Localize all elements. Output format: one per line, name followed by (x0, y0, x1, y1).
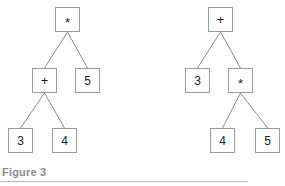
tree-node-r0[interactable]: + (208, 7, 233, 32)
tree-node-l1[interactable]: + (32, 68, 57, 93)
tree-node-label: * (65, 19, 70, 27)
tree-node-label: 5 (84, 75, 91, 87)
tree-edge (241, 93, 268, 128)
caption-divider (0, 181, 248, 182)
tree-edge (198, 32, 221, 68)
tree-edge (21, 93, 45, 128)
tree-node-label: + (217, 13, 225, 26)
tree-node-label: 5 (264, 135, 271, 147)
figure-caption: Figure 3 (0, 166, 285, 178)
tree-node-l0[interactable]: * (55, 7, 80, 32)
tree-node-label: 3 (194, 75, 201, 87)
tree-node-label: + (41, 74, 49, 87)
tree-node-l3[interactable]: 3 (8, 128, 33, 153)
tree-node-r1[interactable]: 3 (185, 68, 210, 93)
tree-node-label: 3 (17, 135, 24, 147)
tree-edge (45, 32, 68, 68)
tree-node-label: 4 (61, 135, 68, 147)
tree-edge-layer (0, 0, 285, 186)
tree-node-l2[interactable]: 5 (75, 68, 100, 93)
figure-caption-block: Figure 3 (0, 166, 285, 178)
tree-node-r4[interactable]: 5 (255, 128, 280, 153)
tree-node-label: * (238, 80, 243, 88)
tree-node-l4[interactable]: 4 (52, 128, 77, 153)
tree-node-label: 4 (219, 135, 226, 147)
tree-node-r2[interactable]: * (228, 68, 253, 93)
figure-container: *+534 +3*45 Figure 3 (0, 0, 285, 186)
tree-edge (45, 93, 65, 128)
tree-node-r3[interactable]: 4 (210, 128, 235, 153)
tree-edge (68, 32, 88, 68)
tree-edge (221, 32, 241, 68)
tree-edge (223, 93, 241, 128)
